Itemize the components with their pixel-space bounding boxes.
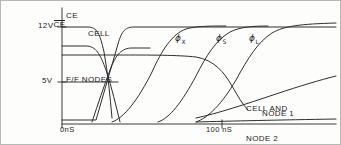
trace-ce bbox=[62, 27, 336, 120]
signal-label-cell: CELL bbox=[88, 30, 110, 39]
ce-bar-text: CE bbox=[54, 20, 66, 29]
signal-label-phi-l: ϕL bbox=[236, 24, 259, 55]
phi-x-subscript: X bbox=[181, 38, 186, 45]
signal-label-ce-bar: CE bbox=[43, 11, 65, 38]
signal-label-ff-nodes: F/F NODES bbox=[66, 76, 112, 85]
signal-label-ce: CE bbox=[66, 12, 78, 21]
trace-ce-bar bbox=[62, 27, 112, 118]
signal-label-phi-s: ϕS bbox=[203, 24, 227, 55]
x-axis-label-start: 0nS bbox=[60, 126, 75, 134]
x-axis-label-end: 100 nS bbox=[206, 126, 232, 134]
phi-l-subscript: L bbox=[255, 38, 259, 45]
y-axis-label-5v: 5V bbox=[42, 77, 53, 86]
signal-label-node1: NODE 1 bbox=[262, 110, 294, 119]
cell-and-node2-line2: NODE 2 bbox=[246, 134, 288, 144]
signal-label-phi-x: ϕX bbox=[162, 24, 186, 55]
waveform-diagram: 12V 5V 0nS 100 nS CE CE CELL F/F NODES ϕ… bbox=[0, 0, 341, 145]
trace-ff-node-b bbox=[92, 48, 150, 122]
phi-s-subscript: S bbox=[222, 38, 226, 45]
